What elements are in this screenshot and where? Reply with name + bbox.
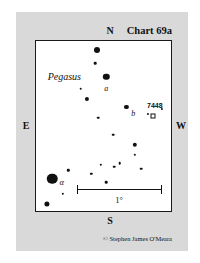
star-point [100, 164, 102, 166]
compass-south-label: S [107, 216, 113, 226]
star-point [140, 167, 143, 170]
star-label-b: b [131, 110, 135, 118]
galaxy-symbol-7448 [151, 113, 156, 118]
star-point [79, 87, 82, 90]
copyright-credit: © Stephen James O'Meara [103, 236, 172, 243]
star-point [94, 62, 97, 65]
page-title: Chart 69a [127, 26, 172, 37]
scale-bar [77, 189, 162, 190]
star-point [62, 193, 64, 195]
starfield: Pegasus a b α 7448 [36, 41, 171, 211]
star-point [94, 47, 100, 53]
star-point [105, 181, 108, 184]
scale-bar-label: 1° [115, 196, 123, 205]
star-point [132, 142, 136, 146]
star-point-alpha [47, 173, 58, 184]
star-chart-page: Chart 69a N S E W Pegasus a b α 7448 [0, 0, 200, 263]
compass-north-label: N [106, 26, 113, 36]
star-point [90, 172, 92, 174]
star-point [113, 166, 116, 169]
constellation-label: Pegasus [48, 72, 81, 82]
star-point [160, 108, 162, 110]
star-point [118, 162, 121, 165]
star-point [85, 97, 89, 101]
star-point [44, 202, 49, 207]
star-point [124, 105, 128, 109]
chart-frame: Pegasus a b α 7448 [35, 40, 172, 212]
star-label-a: a [104, 85, 108, 93]
star-point [112, 133, 115, 136]
star-point [103, 73, 109, 79]
compass-east-label: E [23, 121, 30, 131]
star-point [97, 116, 100, 119]
star-point [67, 169, 69, 171]
compass-west-label: W [176, 121, 186, 131]
star-label-alpha: α [59, 178, 63, 187]
star-point [147, 113, 149, 115]
star-point [133, 154, 135, 156]
